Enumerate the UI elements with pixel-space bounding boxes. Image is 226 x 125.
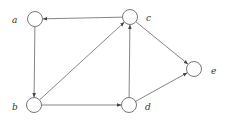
- edges: [34, 17, 188, 105]
- edge-c-to-a: [43, 17, 123, 19]
- node-label-e: e: [211, 66, 216, 76]
- edge-a-to-b: [34, 26, 35, 97]
- node-a: [28, 12, 43, 27]
- node-c: [123, 10, 138, 25]
- edge-b-to-c: [40, 22, 125, 100]
- directed-graph: a c e b d: [0, 0, 226, 125]
- edge-c-to-e: [136, 22, 188, 64]
- node-label-c: c: [146, 13, 151, 23]
- edge-d-to-e: [136, 73, 187, 101]
- node-label-a: a: [12, 15, 17, 25]
- edge-d-to-c: [129, 25, 130, 98]
- node-label-d: d: [145, 102, 151, 112]
- node-d: [122, 98, 137, 113]
- node-e: [187, 62, 202, 77]
- node-label-b: b: [12, 102, 18, 112]
- node-b: [27, 98, 42, 113]
- nodes: [27, 10, 202, 113]
